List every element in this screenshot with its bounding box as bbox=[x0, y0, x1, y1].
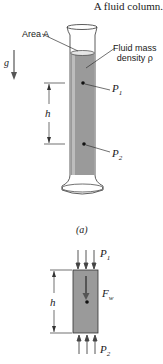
area-label: Area A bbox=[22, 29, 49, 39]
p2-label-b: P2 bbox=[100, 344, 110, 356]
weight-force-label: Fw bbox=[102, 288, 113, 300]
p1-label-a: P1 bbox=[112, 83, 122, 95]
fluid-density-label: Fluid mass density ρ bbox=[113, 43, 157, 63]
fluid-element-block bbox=[73, 270, 98, 333]
p1-point bbox=[81, 81, 85, 85]
p2-label-a: P2 bbox=[112, 148, 122, 160]
p2-point bbox=[82, 142, 86, 146]
p1-label-b: P1 bbox=[100, 248, 110, 260]
graduated-cylinder bbox=[62, 25, 103, 195]
p1-pressure-arrows bbox=[76, 250, 96, 269]
p2-pressure-arrows bbox=[77, 335, 97, 354]
height-label-a: h bbox=[45, 108, 51, 118]
height-label-b: h bbox=[50, 297, 56, 307]
caption-a: (a) bbox=[76, 225, 88, 235]
gravity-arrow-icon bbox=[11, 50, 17, 80]
gravity-label: g bbox=[4, 58, 9, 68]
